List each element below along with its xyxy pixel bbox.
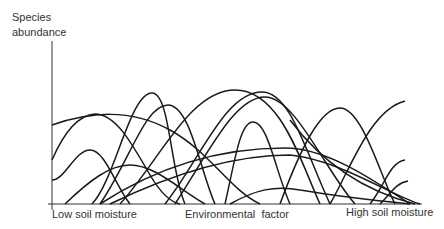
species-curve: [92, 93, 185, 204]
species-curve: [110, 155, 420, 204]
species-curves: [52, 90, 420, 204]
species-curve: [165, 92, 330, 204]
species-curve: [52, 114, 180, 204]
x-axis-label-low: Low soil moisture: [52, 208, 137, 220]
species-curve: [230, 188, 410, 204]
species-curve: [100, 148, 410, 204]
species-abundance-diagram: [0, 0, 444, 229]
species-curve: [52, 114, 260, 204]
x-axis-label-center: Environmental factor: [185, 208, 289, 220]
species-curve: [52, 150, 130, 204]
x-axis-label-high: High soil moisture: [346, 206, 433, 218]
